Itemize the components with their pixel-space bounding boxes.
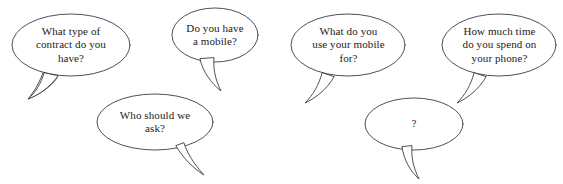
bubble-tail-have-mobile — [200, 58, 221, 91]
bubble-tail-who-ask — [176, 143, 204, 175]
bubble-label-unknown-question: ? — [366, 112, 462, 136]
bubble-tail-hook-contract-type — [28, 73, 58, 99]
bubble-label-mobile-use: What do you use your mobile for? — [292, 21, 405, 69]
speech-bubble-scene: What type of contract do you have? Do yo… — [0, 0, 563, 184]
bubble-label-who-ask: Who should we ask? — [98, 106, 212, 138]
bubble-label-contract-type: What type of contract do you have? — [12, 21, 130, 69]
bubble-tail-phone-time — [457, 73, 486, 103]
bubble-tail-mobile-use — [305, 73, 334, 103]
bubble-label-phone-time: How much time do you spend on your phone… — [443, 21, 556, 69]
bubble-tail-unknown-question — [402, 146, 419, 179]
bubble-unknown-question[interactable] — [365, 98, 463, 179]
bubble-label-have-mobile: Do you have a mobile? — [173, 19, 257, 51]
